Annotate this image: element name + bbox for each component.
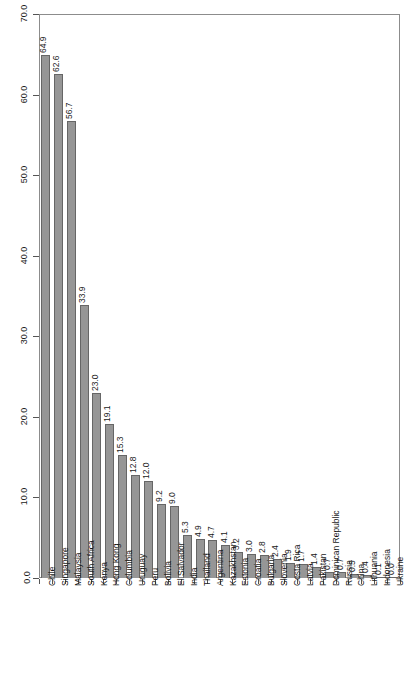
bar-slot[interactable]: 0.7 [336,14,349,578]
bar-slot[interactable]: 0.4 [361,14,374,578]
bar-slot[interactable]: 0.1 [374,14,387,578]
bar-slot[interactable]: 0.0 [387,14,400,578]
bar-slot[interactable]: 2.4 [271,14,284,578]
bar-slot[interactable]: 5.3 [181,14,194,578]
bar-slot[interactable]: 4.1 [220,14,233,578]
bar-slot[interactable]: 33.9 [78,14,91,578]
bar-slot[interactable]: 1.4 [310,14,323,578]
bar-chart: 0.010.020.030.040.050.060.070.0 64.962.6… [0,0,417,679]
bar-slot[interactable]: 23.0 [91,14,104,578]
bar-slot[interactable]: 19.1 [103,14,116,578]
bar-slot[interactable]: 12.8 [129,14,142,578]
bar[interactable] [80,305,89,578]
y-axis-tick-label: 50.0 [0,170,34,179]
bar-slot[interactable]: 3.0 [245,14,258,578]
bar-slot[interactable]: 62.6 [52,14,65,578]
bar-slot[interactable]: 0.7 [323,14,336,578]
bar-slot[interactable]: 9.2 [155,14,168,578]
y-axis-tick-label: 40.0 [0,251,34,260]
y-axis-tick-label: 60.0 [0,90,34,99]
bar-slot[interactable]: 9.0 [168,14,181,578]
bar-slot[interactable]: 0.5 [348,14,361,578]
y-axis-tick-label: 20.0 [0,412,34,421]
x-axis: ChileSingaporeMalaysiaSouth AfricaKenyaH… [39,579,400,679]
y-axis-tick-label: 30.0 [0,331,34,340]
bar-slot[interactable]: 2.8 [258,14,271,578]
x-axis-tick [39,579,40,584]
bars-container: 64.962.656.733.923.019.115.312.812.09.29… [39,14,400,578]
y-axis-tick-label: 0.0 [0,573,34,582]
y-axis-tick-label: 10.0 [0,492,34,501]
bar[interactable] [54,74,63,578]
bar-slot[interactable]: 4.7 [207,14,220,578]
bar-slot[interactable]: 64.9 [39,14,52,578]
y-axis-tick-label: 70.0 [0,9,34,18]
bar-slot[interactable]: 1.9 [284,14,297,578]
bar-slot[interactable]: 15.3 [116,14,129,578]
bar[interactable] [67,121,76,578]
bar-slot[interactable]: 3.2 [232,14,245,578]
bar-slot[interactable]: 56.7 [65,14,78,578]
bar[interactable] [41,55,50,578]
bar-slot[interactable]: 4.9 [194,14,207,578]
bar-slot[interactable]: 1.7 [297,14,310,578]
